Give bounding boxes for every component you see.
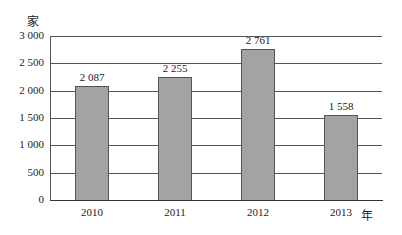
- y-axis-line: [50, 36, 51, 201]
- x-tick-label: 2012: [228, 206, 288, 218]
- y-tick-label: 1 500: [0, 111, 44, 123]
- x-tick-label: 2010: [62, 206, 122, 218]
- bar-value-label: 2 761: [228, 34, 288, 46]
- bar-value-label: 1 558: [311, 100, 371, 112]
- y-tick-label: 1 000: [0, 138, 44, 150]
- y-tick-label: 500: [0, 166, 44, 178]
- bar-2010: [75, 86, 109, 201]
- y-axis-unit-label: 家: [27, 12, 39, 30]
- y-tick-label: 0: [0, 193, 44, 205]
- y-tick-label: 2 000: [0, 84, 44, 96]
- y-tick-label: 2 500: [0, 56, 44, 68]
- gridline: [50, 36, 382, 37]
- x-axis-unit-label: 年: [361, 206, 373, 224]
- bar-value-label: 2 087: [62, 71, 122, 83]
- bar-value-label: 2 255: [145, 62, 205, 74]
- bar-2013: [324, 115, 358, 201]
- y-tick-label: 3 000: [0, 29, 44, 41]
- gridline: [50, 63, 382, 64]
- x-axis-line: [50, 200, 383, 201]
- bar-2011: [158, 77, 192, 201]
- bar-2012: [241, 49, 275, 201]
- bar-chart: 家 05001 0001 5002 0002 5003 000 2 087201…: [0, 0, 402, 235]
- x-tick-label: 2011: [145, 206, 205, 218]
